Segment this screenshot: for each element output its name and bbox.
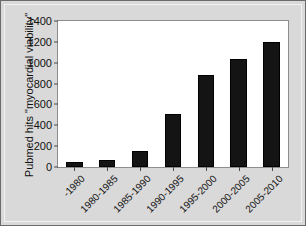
- bar-slot: 2000-2005: [222, 21, 255, 167]
- y-axis-title: Pubmed hits "myocardial viability": [23, 5, 35, 185]
- bar[interactable]: [132, 151, 148, 167]
- bar[interactable]: [198, 75, 214, 167]
- y-tick-label: 1200: [28, 36, 58, 48]
- bar-slot: 1980-1985: [91, 21, 124, 167]
- x-tick-mark: [173, 167, 174, 171]
- y-tick-label: 0: [46, 161, 58, 173]
- x-tick-label: -1980: [61, 173, 87, 199]
- bar-slot: 1995-2000: [189, 21, 222, 167]
- y-tick-label: 400: [34, 119, 58, 131]
- x-tick-mark: [107, 167, 108, 171]
- bar[interactable]: [263, 42, 279, 167]
- x-tick-mark: [272, 167, 273, 171]
- y-tick-label: 1400: [28, 15, 58, 27]
- x-tick-mark: [140, 167, 141, 171]
- y-tick-label: 600: [34, 98, 58, 110]
- bar-slot: 2005-2010: [255, 21, 288, 167]
- bar[interactable]: [99, 160, 115, 167]
- y-tick-label: 800: [34, 78, 58, 90]
- y-tick-label: 200: [34, 140, 58, 152]
- bar[interactable]: [165, 114, 181, 167]
- plot-area: 0200400600800100012001400-19801980-19851…: [57, 20, 289, 168]
- y-tick-label: 1000: [28, 57, 58, 69]
- x-tick-mark: [74, 167, 75, 171]
- x-tick-mark: [239, 167, 240, 171]
- plot-inner: 0200400600800100012001400-19801980-19851…: [58, 21, 288, 167]
- bar-slot: 1985-1990: [124, 21, 157, 167]
- bar-slot: 1990-1995: [157, 21, 190, 167]
- x-tick-mark: [206, 167, 207, 171]
- chart-figure: Pubmed hits "myocardial viability" 02004…: [0, 0, 306, 226]
- bar-slot: -1980: [58, 21, 91, 167]
- bar[interactable]: [230, 59, 246, 167]
